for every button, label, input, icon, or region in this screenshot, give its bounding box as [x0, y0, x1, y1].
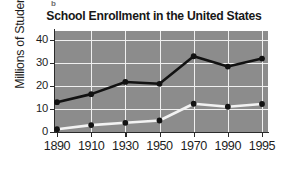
- y-tick-label: 30: [26, 57, 48, 68]
- plot-area-wrapper: [55, 31, 268, 132]
- data-point-marker: [54, 126, 60, 132]
- series-line: [57, 104, 262, 129]
- data-point-marker: [54, 99, 60, 105]
- data-point-marker: [122, 79, 128, 85]
- x-tick-mark: [262, 133, 263, 137]
- y-tick-label: 0: [26, 126, 48, 137]
- x-tick-mark: [228, 133, 229, 137]
- x-tick-label: 1995: [242, 139, 282, 153]
- series-line: [57, 56, 262, 102]
- y-tick-label: 10: [26, 103, 48, 114]
- x-tick-mark: [125, 133, 126, 137]
- y-tick-mark: [50, 63, 54, 64]
- y-tick-mark: [50, 132, 54, 133]
- y-tick-mark: [50, 86, 54, 87]
- y-tick-label: 40: [26, 34, 48, 45]
- x-axis-line: [54, 132, 269, 133]
- data-point-marker: [88, 91, 94, 97]
- data-point-marker: [259, 56, 265, 62]
- x-tick-mark: [160, 133, 161, 137]
- data-point-marker: [88, 122, 94, 128]
- x-tick-mark: [91, 133, 92, 137]
- data-point-marker: [122, 120, 128, 126]
- data-point-marker: [157, 118, 163, 124]
- x-tick-mark: [194, 133, 195, 137]
- x-tick-mark: [57, 133, 58, 137]
- y-tick-mark: [50, 109, 54, 110]
- data-point-marker: [225, 64, 231, 70]
- data-point-marker: [157, 81, 163, 87]
- series-layer: [55, 31, 268, 132]
- data-point-marker: [225, 104, 231, 110]
- data-point-marker: [191, 53, 197, 59]
- figure-panel-label: b: [51, 0, 56, 8]
- y-tick-mark: [50, 40, 54, 41]
- chart-title: School Enrollment in the United States: [0, 9, 282, 23]
- y-tick-label: 20: [26, 80, 48, 91]
- data-point-marker: [191, 101, 197, 107]
- data-point-marker: [259, 101, 265, 107]
